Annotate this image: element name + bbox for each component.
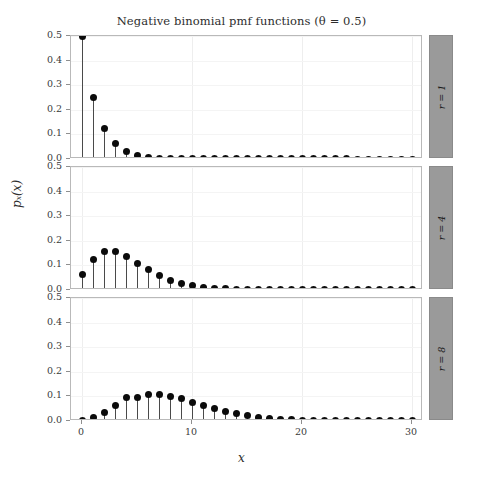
x-axis-tick-label: 20: [288, 426, 314, 437]
data-point: [398, 417, 405, 420]
data-point: [123, 394, 130, 401]
data-point: [266, 286, 273, 289]
plot-area: [70, 297, 422, 420]
data-point: [343, 286, 350, 289]
data-point: [277, 416, 284, 420]
stem-line: [137, 263, 138, 289]
stem-line: [93, 98, 94, 159]
y-axis-tick-label: 0.2: [32, 234, 62, 245]
facet-panel-3: r = 8: [70, 297, 453, 420]
stem-line: [159, 395, 160, 420]
data-point: [79, 35, 86, 40]
data-point: [233, 155, 240, 158]
stem-line: [181, 399, 182, 420]
data-point: [398, 156, 405, 159]
gridline-horizontal: [71, 323, 421, 324]
x-axis-tick-mark: [191, 420, 192, 424]
data-point: [288, 416, 295, 420]
data-point: [277, 155, 284, 158]
data-point: [211, 155, 218, 158]
data-point: [123, 253, 130, 260]
stem-line: [126, 256, 127, 289]
data-point: [299, 286, 306, 289]
stem-line: [137, 398, 138, 420]
data-point: [200, 155, 207, 158]
data-point: [123, 148, 130, 155]
facet-panel-2: r = 4: [70, 166, 453, 289]
gridline-horizontal: [71, 265, 421, 266]
negative-binomial-pmf-figure: Negative binomial pmf functions (θ = 0.5…: [0, 0, 483, 482]
stem-line: [115, 252, 116, 289]
data-point: [211, 405, 218, 412]
x-axis-label: x: [0, 451, 483, 465]
data-point: [376, 417, 383, 420]
data-point: [134, 394, 141, 401]
gridline-horizontal: [71, 61, 421, 62]
data-point: [354, 286, 361, 289]
data-point: [255, 286, 262, 289]
data-point: [244, 155, 251, 158]
stem-line: [93, 259, 94, 289]
data-point: [101, 125, 108, 132]
data-point: [244, 412, 251, 419]
y-axis-tick-label: 0.1: [32, 127, 62, 138]
y-axis-tick-label: 0.1: [32, 258, 62, 269]
data-point: [200, 402, 207, 409]
data-point: [189, 282, 196, 289]
x-axis-tick-mark: [81, 420, 82, 424]
data-point: [79, 271, 86, 278]
data-point: [222, 155, 229, 158]
data-point: [167, 277, 174, 284]
data-point: [244, 286, 251, 289]
data-point: [343, 417, 350, 420]
facet-strip-label: r = 4: [436, 215, 447, 240]
facet-strip-label: r = 1: [436, 84, 447, 109]
stem-line: [148, 157, 149, 158]
data-point: [79, 417, 86, 420]
data-point: [310, 417, 317, 420]
data-point: [233, 410, 240, 417]
gridline-vertical: [302, 167, 303, 288]
gridline-vertical: [192, 36, 193, 157]
y-axis-tick-label: 0.4: [32, 316, 62, 327]
facet-panel-1: r = 1: [70, 35, 453, 158]
data-point: [255, 155, 262, 158]
y-axis-tick-label: 0.2: [32, 365, 62, 376]
data-point: [332, 286, 339, 289]
data-point: [266, 415, 273, 420]
gridline-horizontal: [71, 347, 421, 348]
data-point: [321, 417, 328, 420]
data-point: [365, 417, 372, 420]
data-point: [365, 286, 372, 289]
data-point: [310, 155, 317, 158]
gridline-horizontal: [71, 216, 421, 217]
stem-line: [280, 419, 281, 420]
data-point: [321, 155, 328, 158]
gridline-horizontal: [71, 134, 421, 135]
data-point: [101, 409, 108, 416]
stem-line: [148, 395, 149, 420]
gridline-horizontal: [71, 241, 421, 242]
data-point: [112, 402, 119, 409]
y-axis-label: pₓ(x): [10, 186, 24, 208]
facet-strip: r = 1: [429, 35, 453, 158]
data-point: [387, 417, 394, 420]
data-point: [145, 154, 152, 158]
y-axis-tick-label: 0.1: [32, 389, 62, 400]
x-axis-tick-label: 30: [398, 426, 424, 437]
data-point: [255, 414, 262, 420]
data-point: [354, 417, 361, 420]
stem-line: [170, 396, 171, 420]
y-axis-tick-label: 0.4: [32, 54, 62, 65]
data-point: [409, 156, 416, 159]
data-point: [365, 156, 372, 159]
plot-area: [70, 166, 422, 289]
gridline-vertical: [302, 36, 303, 157]
x-axis-tick-label: 0: [68, 426, 94, 437]
y-axis-tick-label: 0.0: [32, 414, 62, 425]
data-point: [277, 286, 284, 289]
gridline-horizontal: [71, 298, 421, 299]
data-point: [222, 408, 229, 415]
gridline-vertical: [82, 298, 83, 419]
gridline-vertical: [302, 298, 303, 419]
